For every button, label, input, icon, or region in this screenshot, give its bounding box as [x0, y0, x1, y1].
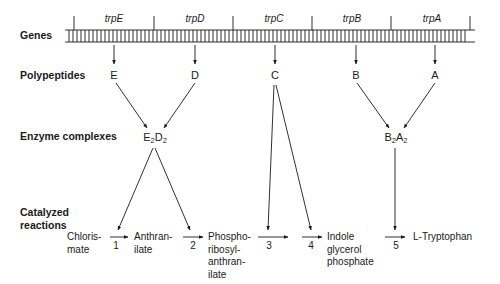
- compound-indole-glycerol-phosphate: Indole glycerol phosphate: [327, 231, 374, 269]
- polypeptide-E: E: [110, 69, 117, 81]
- gene-label-trpA: trpA: [423, 13, 441, 24]
- gene-label-trpD: trpD: [186, 13, 205, 24]
- gene-label-trpC: trpC: [265, 13, 284, 24]
- polypeptide-C: C: [271, 69, 279, 81]
- reaction-number-2: 2: [190, 240, 196, 251]
- gene-label-trpE: trpE: [105, 13, 123, 24]
- polypeptide-A: A: [431, 69, 438, 81]
- gene-bar-hatching: [69, 30, 465, 42]
- compound-chorismate: Chloris- mate: [67, 231, 101, 256]
- polypeptide-B: B: [352, 69, 359, 81]
- compound-phosphoribosylanthranilate: Phospho- ribosyl- anthran- ilate: [208, 231, 251, 281]
- polypeptide-D: D: [191, 69, 199, 81]
- enzyme-complex-E2D2: E2D2: [143, 131, 167, 145]
- reaction-number-3: 3: [266, 240, 272, 251]
- row-label-enzyme-complexes: Enzyme complexes: [20, 130, 117, 142]
- gene-label-trpB: trpB: [343, 13, 361, 24]
- compound-l-tryptophan: L-Tryptophan: [413, 231, 472, 244]
- row-label-catalyzed-reactions: Catalyzed reactions: [20, 206, 69, 232]
- compound-anthranilate: Anthran- ilate: [134, 231, 172, 256]
- row-label-genes: Genes: [20, 29, 52, 41]
- enzyme-complex-B2A2: B2A2: [384, 131, 407, 145]
- reaction-number-1: 1: [113, 240, 119, 251]
- reaction-number-4: 4: [308, 240, 314, 251]
- row-label-polypeptides: Polypeptides: [20, 69, 85, 81]
- reaction-number-5: 5: [393, 240, 399, 251]
